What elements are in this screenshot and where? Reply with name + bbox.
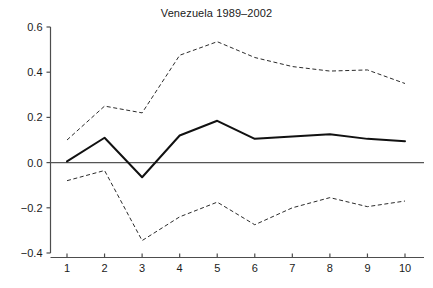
y-tick-label: 0.2 bbox=[27, 111, 42, 123]
line-chart-plot: −0.4−0.20.00.20.40.6 12345678910 bbox=[0, 0, 433, 288]
x-tick-label: 8 bbox=[327, 262, 333, 274]
series-upper-confidence-band bbox=[67, 42, 405, 140]
x-tick-label: 9 bbox=[364, 262, 370, 274]
x-tick-label: 5 bbox=[214, 262, 220, 274]
data-series-group bbox=[67, 42, 405, 241]
x-axis: 12345678910 bbox=[51, 254, 425, 274]
y-tick-label: 0.4 bbox=[27, 66, 42, 78]
x-tick-label: 3 bbox=[139, 262, 145, 274]
x-tick-label: 4 bbox=[177, 262, 183, 274]
x-tick-label: 1 bbox=[64, 262, 70, 274]
chart-figure: Venezuela 1989–2002 −0.4−0.20.00.20.40.6… bbox=[0, 0, 433, 288]
y-tick-label: −0.4 bbox=[21, 247, 43, 259]
y-tick-label: 0.0 bbox=[27, 157, 42, 169]
x-tick-label: 6 bbox=[252, 262, 258, 274]
x-tick-label: 2 bbox=[101, 262, 107, 274]
series-lower-confidence-band bbox=[67, 171, 405, 241]
x-tick-label: 7 bbox=[289, 262, 295, 274]
y-tick-label: −0.2 bbox=[21, 202, 43, 214]
y-axis: −0.4−0.20.00.20.40.6 bbox=[21, 21, 51, 259]
y-tick-label: 0.6 bbox=[27, 21, 42, 33]
series-point-estimate bbox=[67, 121, 405, 177]
x-tick-label: 10 bbox=[399, 262, 411, 274]
